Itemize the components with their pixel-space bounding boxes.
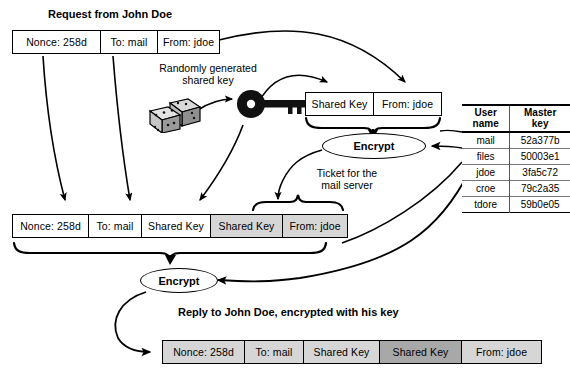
- encrypted-reply-cell: To: mail: [245, 341, 304, 363]
- cell-master-key: 79c2a35: [510, 181, 570, 197]
- header-user-line2: name: [473, 118, 499, 129]
- header-user-name: User name: [462, 105, 510, 132]
- table-header-row: User name Master key: [462, 105, 570, 132]
- ticket-label: Ticket for the mail server: [308, 167, 386, 191]
- cell-master-key: 52a377b: [510, 132, 570, 149]
- table-row: files50003e1: [462, 149, 570, 165]
- encrypted-reply-cell: Nonce: 258d: [163, 341, 245, 363]
- assembled-reply-cell: Shared Key: [142, 215, 211, 237]
- header-master-key: Master key: [510, 105, 570, 132]
- assembled-reply-cell: From: jdoe: [283, 215, 347, 237]
- ticket-payload-cell: From: jdoe: [374, 93, 441, 115]
- request-title: Request from John Doe: [48, 8, 172, 20]
- reply-title: Reply to John Doe, encrypted with his ke…: [178, 306, 399, 318]
- cell-user-name: tdore: [462, 197, 510, 213]
- key-icon: [236, 88, 308, 120]
- cell-master-key: 50003e1: [510, 149, 570, 165]
- random-key-label: Randomly generated shared key: [149, 62, 267, 86]
- encrypted-reply-cell: Shared Key: [380, 341, 462, 363]
- header-user-line1: User: [475, 107, 497, 118]
- encrypted-reply-cell: From: jdoe: [462, 341, 541, 363]
- cell-user-name: jdoe: [462, 165, 510, 181]
- ticket-payload: Shared KeyFrom: jdoe: [305, 92, 442, 116]
- assembled-reply-cell: Shared Key: [211, 215, 283, 237]
- header-key-line2: key: [532, 118, 549, 129]
- ticket-label-line1: Ticket for the: [317, 167, 377, 179]
- random-key-label-line2: shared key: [182, 74, 233, 86]
- cell-master-key: 3fa5c72: [510, 165, 570, 181]
- cell-user-name: mail: [462, 132, 510, 149]
- header-key-line1: Master: [524, 107, 556, 118]
- assembled-reply: Nonce: 258dTo: mailShared KeyShared KeyF…: [12, 214, 348, 238]
- cell-user-name: files: [462, 149, 510, 165]
- table-row: mail52a377b: [462, 132, 570, 149]
- cell-master-key: 59b0e05: [510, 197, 570, 213]
- kerberos-diagram: Request from John Doe Nonce: 258dTo: mai…: [0, 0, 570, 369]
- table-row: tdore59b0e05: [462, 197, 570, 213]
- request-message-cell: From: jdoe: [158, 31, 219, 53]
- encrypt-top-node[interactable]: Encrypt: [322, 133, 426, 159]
- table-row: croe79c2a35: [462, 181, 570, 197]
- random-key-label-line1: Randomly generated: [159, 62, 256, 74]
- cell-user-name: croe: [462, 181, 510, 197]
- encrypted-reply-cell: Shared Key: [304, 341, 380, 363]
- request-message: Nonce: 258dTo: mailFrom: jdoe: [12, 30, 220, 54]
- dice-icon: [148, 95, 202, 133]
- encrypt-bottom-node[interactable]: Encrypt: [140, 268, 218, 293]
- ticket-label-line2: mail server: [321, 179, 372, 191]
- master-key-table: User name Master key mail52a377bfiles500…: [462, 104, 570, 213]
- request-message-cell: Nonce: 258d: [13, 31, 101, 53]
- encrypted-reply: Nonce: 258dTo: mailShared KeyShared KeyF…: [162, 340, 542, 364]
- assembled-reply-cell: Nonce: 258d: [13, 215, 89, 237]
- ticket-payload-cell: Shared Key: [306, 93, 374, 115]
- table-row: jdoe3fa5c72: [462, 165, 570, 181]
- request-message-cell: To: mail: [101, 31, 158, 53]
- assembled-reply-cell: To: mail: [89, 215, 142, 237]
